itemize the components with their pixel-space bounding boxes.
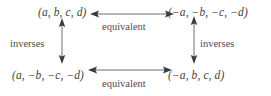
edge-label-equivalent-top: equivalent	[102, 22, 146, 33]
node-bottom-right: (−a, b, c, d)	[168, 70, 224, 82]
edge-label-inverses-right: inverses	[200, 39, 234, 50]
double-arrow-horizontal-icon-bottom	[88, 65, 172, 75]
node-top-left: (a, b, c, d)	[38, 7, 86, 19]
node-top-right: (−a, −b, −c, −d)	[168, 7, 248, 19]
double-arrow-vertical-icon-left	[56, 18, 68, 64]
node-bottom-left: (a, −b, −c, −d)	[12, 70, 84, 82]
double-arrow-horizontal-icon-top	[90, 9, 174, 19]
edge-label-equivalent-bottom: equivalent	[102, 79, 146, 90]
equivalence-diagram: (a, b, c, d) (−a, −b, −c, −d) (a, −b, −c…	[0, 0, 271, 96]
edge-label-inverses-left: inverses	[10, 39, 44, 50]
double-arrow-vertical-icon-right	[188, 16, 200, 64]
